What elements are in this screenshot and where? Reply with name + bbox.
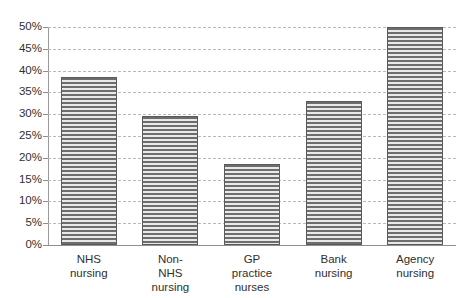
y-axis-tick-label: 25% [0, 130, 42, 141]
y-axis-tick-label: 15% [0, 174, 42, 185]
category-label-line: Bank [293, 252, 375, 266]
y-axis-tick-label: 20% [0, 152, 42, 163]
bar [142, 116, 198, 245]
x-axis-category-label: NHSnursing [48, 252, 130, 280]
y-axis-tick-label: 50% [0, 21, 42, 32]
y-axis-tick-label: 0% [0, 239, 42, 250]
bar [61, 77, 117, 245]
category-label-line: nursing [374, 266, 456, 280]
y-axis-tick-label: 40% [0, 65, 42, 76]
category-label-line: nurses [211, 280, 293, 294]
x-axis-category-label: Agencynursing [374, 252, 456, 280]
category-label-line: practice [211, 266, 293, 280]
plot-area [48, 27, 456, 245]
category-label-line: Non- [130, 252, 212, 266]
gridline-0 [48, 245, 456, 246]
bar-chart: 0%5%10%15%20%25%30%35%40%45%50% NHSnursi… [0, 0, 475, 298]
y-axis-tick-label: 10% [0, 195, 42, 206]
x-axis-category-label: Non-NHSnursing [130, 252, 212, 294]
bar [224, 164, 280, 245]
category-label-line: nursing [130, 280, 212, 294]
x-axis-category-label: Banknursing [293, 252, 375, 280]
category-label-line: GP [211, 252, 293, 266]
y-axis-tick-label: 30% [0, 108, 42, 119]
category-label-line: Agency [374, 252, 456, 266]
category-label-line: NHS [48, 252, 130, 266]
category-label-line: NHS [130, 266, 212, 280]
category-label-line: nursing [48, 266, 130, 280]
y-axis-tick-label: 5% [0, 217, 42, 228]
category-label-line: nursing [293, 266, 375, 280]
y-axis-tick-label: 35% [0, 86, 42, 97]
y-axis-tick-label: 45% [0, 43, 42, 54]
x-axis-category-label: GPpracticenurses [211, 252, 293, 294]
bar [306, 101, 362, 245]
bar [387, 27, 443, 245]
